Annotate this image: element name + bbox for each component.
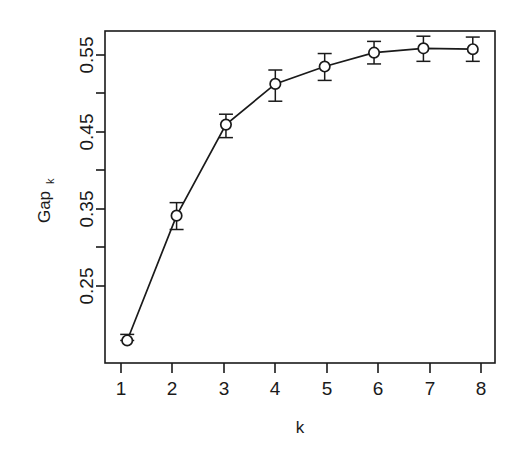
chart-svg: 0.55 0.45 0.35 0.25 Gap k 1 2 3 4 5 6 7 xyxy=(0,0,518,455)
data-marker xyxy=(319,61,329,71)
y-tick-label-0.25: 0.25 xyxy=(76,268,97,305)
gap-statistic-chart: 0.55 0.45 0.35 0.25 Gap k 1 2 3 4 5 6 7 xyxy=(0,0,518,455)
data-marker xyxy=(122,335,132,345)
x-tick-label-8: 8 xyxy=(476,378,487,399)
x-tick-label-5: 5 xyxy=(322,378,333,399)
x-tick-label-4: 4 xyxy=(270,378,281,399)
x-tick-label-2: 2 xyxy=(167,378,178,399)
y-axis: 0.55 0.45 0.35 0.25 xyxy=(76,37,106,305)
y-axis-title-text: Gap xyxy=(35,191,54,223)
data-marker xyxy=(171,210,181,220)
x-tick-label-3: 3 xyxy=(219,378,230,399)
data-marker xyxy=(418,43,428,53)
data-marker xyxy=(270,79,280,89)
data-series-layer xyxy=(120,36,480,345)
series-line xyxy=(127,48,473,340)
y-tick-label-0.45: 0.45 xyxy=(76,114,97,151)
data-point-k7 xyxy=(416,36,430,61)
x-axis-title: k xyxy=(296,418,305,437)
x-axis: 1 2 3 4 5 6 7 8 xyxy=(116,363,487,399)
data-marker xyxy=(369,47,379,57)
data-marker xyxy=(221,119,231,129)
y-tick-label-0.35: 0.35 xyxy=(76,191,97,228)
data-marker xyxy=(468,44,478,54)
y-tick-label-0.55: 0.55 xyxy=(76,37,97,74)
x-tick-label-1: 1 xyxy=(116,378,127,399)
data-point-k5 xyxy=(318,54,332,81)
plot-frame xyxy=(105,31,495,363)
data-point-k1 xyxy=(120,334,134,345)
x-tick-label-7: 7 xyxy=(425,378,436,399)
x-tick-label-6: 6 xyxy=(373,378,384,399)
y-axis-title: Gap k xyxy=(35,178,57,223)
data-point-k4 xyxy=(268,70,282,101)
data-point-k8 xyxy=(466,37,480,61)
y-axis-title-subscript: k xyxy=(44,178,56,184)
data-point-k6 xyxy=(367,41,381,64)
